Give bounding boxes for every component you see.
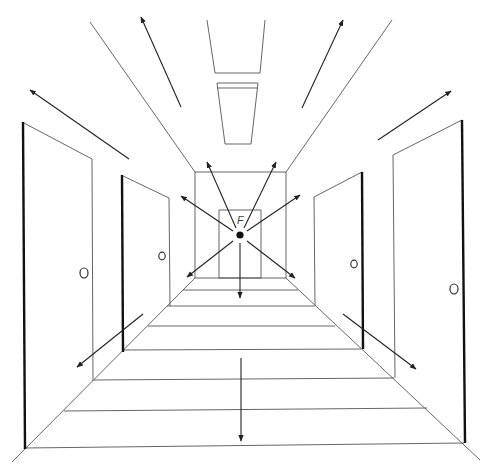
arrow-left-up bbox=[181, 196, 233, 231]
door-hinge-edge bbox=[122, 175, 123, 352]
floor-line bbox=[25, 443, 464, 448]
arrow-right-up bbox=[247, 195, 300, 231]
floor-line bbox=[94, 378, 394, 380]
arrow-right-down bbox=[247, 241, 295, 278]
door-right-near bbox=[393, 120, 465, 443]
door-hinge-edge bbox=[462, 120, 465, 443]
hallway-perspective-diagram: F bbox=[0, 0, 486, 474]
vanishing-point-dot bbox=[236, 231, 243, 238]
door-knob bbox=[80, 268, 88, 278]
arrow-ceiling-right bbox=[302, 20, 343, 108]
ceiling-lights bbox=[207, 20, 265, 144]
arrow-wall-left bbox=[30, 90, 129, 159]
floor-line bbox=[64, 408, 427, 411]
door-knob bbox=[351, 260, 357, 268]
door-knob bbox=[450, 284, 458, 294]
floor-right-edge bbox=[286, 278, 480, 460]
corridor-edges bbox=[12, 20, 480, 462]
ceiling-light-near bbox=[207, 20, 265, 73]
vanishing-point-label: F bbox=[237, 214, 245, 226]
arrow-ceiling-left bbox=[141, 17, 181, 107]
ceiling-light-far bbox=[217, 83, 258, 144]
door-right-far bbox=[314, 172, 363, 349]
ceiling-right-edge bbox=[286, 20, 392, 172]
door-left-near bbox=[22, 122, 93, 449]
door-hinge-edge bbox=[23, 122, 25, 449]
arrow-left-down bbox=[187, 241, 233, 277]
arrow-wall-right bbox=[378, 91, 451, 140]
door-hinge-edge bbox=[362, 172, 363, 349]
floor-boards bbox=[25, 290, 464, 448]
door-knob bbox=[159, 252, 165, 260]
floor-line bbox=[123, 349, 361, 350]
ceiling-left-edge bbox=[90, 22, 195, 172]
